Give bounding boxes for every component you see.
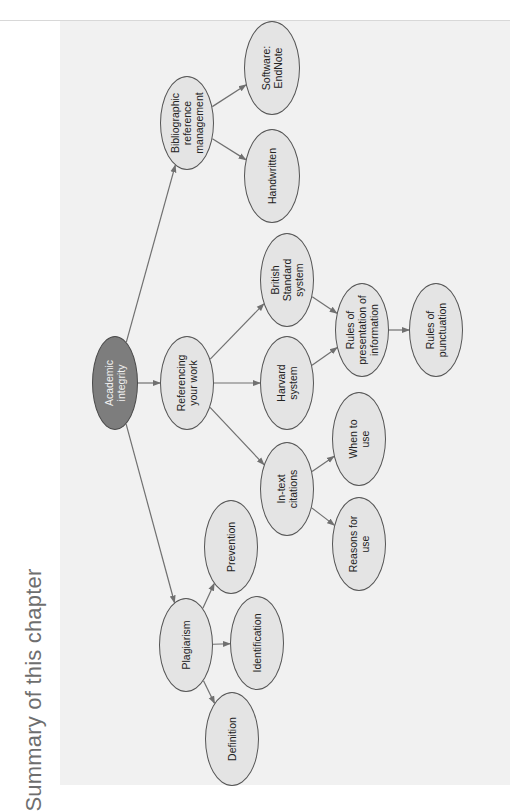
node-label: Rules ofpunctuation bbox=[424, 303, 448, 357]
node-rules-of-presentation: Rules ofpresentation ofinformation bbox=[335, 283, 389, 377]
node-reasons-for-use: Reasons foruse bbox=[332, 497, 386, 591]
node-rules-of-punctuation: Rules ofpunctuation bbox=[409, 283, 463, 377]
edge-bibliographic-to-endnote bbox=[212, 85, 246, 107]
edge-in_text-to-when_to_use bbox=[312, 456, 334, 471]
node-label: Prevention bbox=[225, 522, 237, 572]
node-label: Handwritten bbox=[266, 148, 278, 204]
node-software-endnote: Software:EndNote bbox=[244, 21, 300, 115]
node-label: Software:EndNote bbox=[260, 46, 284, 90]
edge-referencing-to-in_text bbox=[210, 407, 264, 464]
node-label: Academicintegrity bbox=[103, 360, 127, 406]
node-plagiarism: Plagiarism bbox=[159, 598, 213, 692]
edge-british_standard-to-rules_presentation bbox=[312, 297, 337, 313]
node-label: Rules ofpresentation ofinformation bbox=[344, 295, 380, 364]
node-in-text-citations: In-textcitations bbox=[260, 442, 314, 536]
node-when-to-use: When touse bbox=[332, 392, 386, 486]
node-label: Identification bbox=[251, 614, 263, 673]
node-definition: Definition bbox=[205, 692, 259, 786]
edge-bibliographic-to-handwritten bbox=[212, 139, 245, 160]
node-bibliographic-reference-management: Bibliographicreferencemanagement bbox=[160, 76, 214, 170]
node-identification: Identification bbox=[230, 596, 284, 690]
node-label: When touse bbox=[347, 419, 371, 458]
node-referencing-your-work: Referencingyour work bbox=[160, 336, 214, 430]
node-prevention: Prevention bbox=[204, 500, 258, 594]
node-label: Harvardsystem bbox=[275, 364, 299, 401]
node-harvard-system: Harvardsystem bbox=[260, 336, 314, 430]
edge-referencing-to-british_standard bbox=[210, 304, 264, 359]
edge-plagiarism-to-prevention bbox=[203, 584, 214, 609]
edge-plagiarism-to-definition bbox=[204, 681, 215, 703]
node-label: Plagiarism bbox=[180, 620, 192, 669]
node-label: BritishStandardsystem bbox=[269, 259, 305, 302]
node-label: Definition bbox=[226, 717, 238, 761]
edge-harvard-to-rules_presentation bbox=[312, 348, 337, 366]
edge-academic_integrity-to-plagiarism bbox=[126, 424, 174, 602]
edge-in_text-to-reasons_for_use bbox=[312, 508, 335, 525]
node-label: Bibliographicreferencemanagement bbox=[169, 92, 205, 153]
node-label: Reasons foruse bbox=[347, 516, 371, 573]
edge-academic_integrity-to-bibliographic bbox=[126, 165, 175, 342]
node-label: In-textcitations bbox=[275, 470, 299, 509]
node-academic-integrity: Academicintegrity bbox=[92, 336, 138, 430]
node-label: Referencingyour work bbox=[175, 355, 199, 412]
node-british-standard-system: BritishStandardsystem bbox=[260, 233, 314, 327]
node-handwritten: Handwritten bbox=[244, 129, 300, 223]
